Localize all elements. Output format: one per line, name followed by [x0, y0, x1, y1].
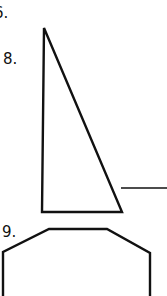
octagon-shape [3, 229, 150, 296]
right-triangle [42, 28, 122, 212]
geometry-figures [0, 0, 167, 296]
